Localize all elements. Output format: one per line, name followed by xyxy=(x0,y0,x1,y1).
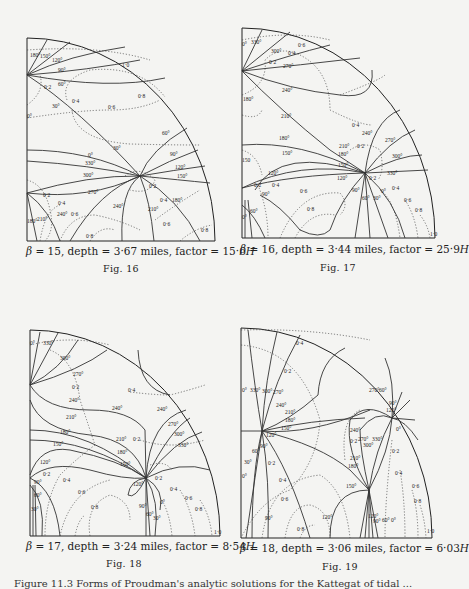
contour-label: 120° xyxy=(266,432,276,438)
contour-label: 60° xyxy=(382,517,390,523)
contour-label: 0·6 xyxy=(281,496,289,502)
contour-label: 0·6 xyxy=(412,483,420,489)
contour-label: 0·4 xyxy=(296,340,304,346)
contour-label: 90° xyxy=(389,400,397,406)
contour-label: 0·4 xyxy=(395,470,403,476)
contour-label: 0·2 xyxy=(268,460,276,466)
figure-group-caption: Figure 11.3 Forms of Proudman's analytic… xyxy=(14,578,412,589)
contour-label: 0° xyxy=(242,387,247,393)
contour-label: 210° xyxy=(350,455,360,461)
contour-label: 0·4 xyxy=(279,477,287,483)
caption-19: β = 18, depth = 3·06 miles, factor = 6·0… xyxy=(240,542,436,554)
contour-label: 180° xyxy=(285,417,295,423)
contour-label: 240° xyxy=(350,427,360,433)
contour-label: 0·2 xyxy=(284,368,292,374)
contour-label: 60° xyxy=(379,387,387,393)
contour-label: 150° xyxy=(346,483,356,489)
contour-label: 300° xyxy=(363,442,373,448)
contour-label: 120° xyxy=(322,514,332,520)
contour-label: 300° xyxy=(262,388,272,394)
contour-label: 90° xyxy=(260,443,268,449)
contour-label: 1·0 xyxy=(427,528,435,534)
contour-label: 150° xyxy=(281,425,291,431)
contour-label: 210° xyxy=(285,409,295,415)
contour-label: 30° xyxy=(244,459,252,465)
contour-label: 270° xyxy=(273,389,283,395)
contour-label: 0° xyxy=(396,426,401,432)
contour-label: 330° xyxy=(372,436,382,442)
contour-label: 270° xyxy=(369,387,379,393)
contour-label: 0·2 xyxy=(392,448,400,454)
contour-label: 90° xyxy=(265,515,273,521)
contour-label: 0·8 xyxy=(297,526,305,532)
contour-label: 60° xyxy=(252,448,260,454)
contour-label: 0° xyxy=(242,473,247,479)
contour-label: 0° xyxy=(391,517,396,523)
contour-label: 240° xyxy=(276,402,286,408)
fig-label-19: Fig. 19 xyxy=(322,561,358,572)
contour-label: 330° xyxy=(250,387,260,393)
contour-label: 180° xyxy=(348,463,358,469)
contour-label: 0·2 xyxy=(350,438,358,444)
contour-label: 90° xyxy=(373,518,381,524)
contour-label: 0·8 xyxy=(414,498,422,504)
contour-label: 120° xyxy=(386,407,396,413)
point-labels: 0·40·20°330°300°270°270°60°240°90°210°12… xyxy=(242,340,435,534)
